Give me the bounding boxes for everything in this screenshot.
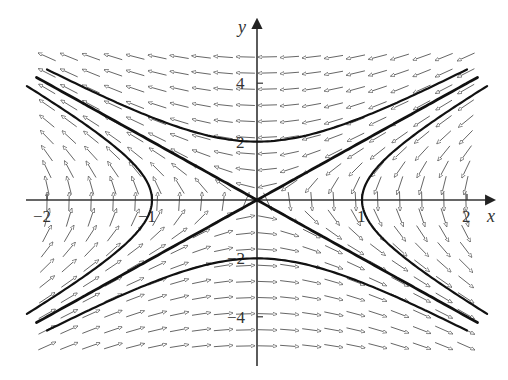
field-arrow bbox=[462, 225, 471, 242]
field-arrow bbox=[42, 146, 53, 161]
field-arrow bbox=[374, 177, 381, 195]
field-arrow bbox=[104, 327, 122, 333]
field-arrow bbox=[60, 53, 78, 60]
field-arrow bbox=[280, 297, 299, 299]
field-arrow bbox=[236, 183, 255, 188]
field-arrow bbox=[328, 210, 339, 225]
field-arrow bbox=[458, 100, 474, 111]
field-arrow bbox=[236, 153, 255, 154]
field-arrow bbox=[349, 227, 363, 240]
field-arrow bbox=[258, 281, 277, 282]
field-arrow bbox=[377, 192, 378, 211]
field-arrow bbox=[413, 327, 431, 334]
field-arrow bbox=[369, 86, 387, 92]
field-arrow bbox=[457, 342, 474, 350]
field-arrow bbox=[302, 72, 321, 75]
field-arrow bbox=[464, 176, 468, 195]
field-arrow bbox=[442, 176, 447, 194]
field-arrow bbox=[288, 192, 291, 211]
field-arrow bbox=[349, 163, 362, 176]
field-arrow bbox=[43, 161, 51, 178]
field-arrow bbox=[86, 161, 96, 177]
field-arrow bbox=[63, 146, 75, 161]
field-arrow bbox=[415, 146, 428, 160]
field-arrow bbox=[302, 88, 321, 91]
field-arrow bbox=[192, 72, 211, 75]
field-arrow bbox=[126, 86, 144, 92]
field-arrow bbox=[82, 343, 100, 349]
field-arrow bbox=[346, 55, 365, 59]
field-arrow bbox=[436, 100, 452, 110]
field-arrow bbox=[369, 278, 386, 286]
field-arrow bbox=[311, 192, 313, 211]
field-arrow bbox=[83, 277, 99, 287]
field-arrow bbox=[439, 161, 448, 178]
field-arrow bbox=[84, 260, 99, 272]
field-arrow bbox=[105, 294, 122, 302]
field-arrow bbox=[280, 329, 299, 331]
field-arrow bbox=[170, 312, 189, 316]
field-arrow bbox=[236, 330, 255, 331]
field-arrow bbox=[280, 88, 299, 90]
field-arrow bbox=[40, 259, 54, 272]
field-arrow bbox=[280, 56, 299, 57]
field-arrow bbox=[391, 86, 409, 93]
field-arrow bbox=[280, 248, 299, 252]
field-arrow bbox=[192, 119, 211, 123]
field-arrow bbox=[153, 177, 161, 194]
field-arrow bbox=[302, 313, 321, 316]
field-arrow bbox=[413, 54, 431, 60]
field-arrow bbox=[372, 162, 384, 177]
field-arrow bbox=[397, 176, 403, 194]
field-arrow bbox=[148, 102, 166, 108]
field-arrow bbox=[38, 342, 55, 350]
field-arrow bbox=[280, 120, 299, 122]
field-arrow bbox=[60, 343, 78, 350]
field-arrow bbox=[132, 177, 139, 195]
field-arrow bbox=[258, 153, 277, 154]
field-arrow bbox=[280, 345, 299, 346]
field-arrow bbox=[172, 164, 187, 176]
field-arrow bbox=[214, 345, 233, 346]
field-arrow bbox=[329, 177, 339, 193]
field-arrow bbox=[305, 178, 317, 192]
field-arrow bbox=[258, 183, 277, 187]
field-arrow bbox=[105, 101, 122, 109]
field-arrow bbox=[460, 146, 471, 161]
field-arrow bbox=[347, 133, 364, 141]
field-arrow bbox=[108, 162, 119, 178]
field-arrow bbox=[107, 226, 119, 241]
field-arrow bbox=[302, 345, 321, 347]
field-arrow bbox=[280, 104, 299, 106]
field-arrow bbox=[149, 148, 165, 159]
field-arrow bbox=[258, 249, 277, 250]
field-arrow bbox=[394, 162, 405, 178]
field-arrow bbox=[192, 103, 211, 106]
field-arrow bbox=[62, 259, 76, 272]
field-arrow bbox=[280, 72, 299, 74]
field-arrow bbox=[324, 55, 343, 58]
field-arrow bbox=[258, 105, 277, 106]
field-arrow bbox=[396, 209, 403, 227]
field-arrow bbox=[415, 243, 428, 257]
field-arrow bbox=[326, 164, 341, 176]
field-arrow bbox=[110, 209, 117, 227]
field-arrow bbox=[150, 227, 164, 240]
field-arrow bbox=[104, 343, 122, 349]
field-arrow bbox=[236, 233, 255, 235]
field-arrow bbox=[258, 298, 277, 299]
field-arrow bbox=[214, 329, 233, 331]
field-arrow bbox=[302, 103, 321, 106]
field-arrow bbox=[414, 277, 430, 287]
field-arrow bbox=[394, 226, 405, 241]
field-arrow bbox=[369, 344, 388, 349]
field-arrow bbox=[66, 208, 72, 226]
field-arrow bbox=[236, 281, 255, 282]
field-arrow bbox=[325, 263, 343, 269]
field-arrow bbox=[374, 209, 382, 226]
field-arrow bbox=[170, 103, 188, 108]
field-arrow bbox=[326, 228, 342, 239]
field-arrow bbox=[85, 146, 98, 160]
field-arrow bbox=[370, 244, 385, 256]
field-arrow bbox=[128, 244, 143, 256]
